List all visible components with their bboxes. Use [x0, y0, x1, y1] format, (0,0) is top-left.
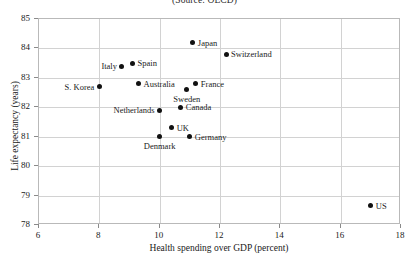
data-point-label: Netherlands [114, 106, 155, 115]
data-point[interactable] [130, 61, 135, 66]
data-point[interactable] [368, 203, 373, 208]
data-point-label: UK [177, 124, 189, 133]
x-axis-tick-label: 18 [396, 230, 405, 240]
data-point-label: Germany [195, 132, 227, 141]
y-axis-tick [34, 224, 38, 225]
y-axis-title: Life expectancy (years) [10, 56, 20, 196]
y-axis-tick-label: 78 [21, 219, 30, 229]
y-axis-tick-label: 83 [21, 72, 30, 82]
y-axis-tick [34, 106, 38, 107]
data-point[interactable] [136, 81, 141, 86]
data-point[interactable] [187, 134, 192, 139]
data-point-label: S. Korea [65, 82, 95, 91]
y-axis-tick-label: 79 [21, 190, 30, 200]
data-point-label: Australia [144, 79, 175, 88]
y-axis-tick-label: 85 [21, 13, 30, 23]
data-point-label: US [376, 202, 387, 211]
gridline-horizontal [39, 107, 399, 108]
gridline-horizontal [39, 48, 399, 49]
data-point-label: France [201, 79, 224, 88]
x-axis-tick [340, 224, 341, 228]
x-axis-tick [159, 224, 160, 228]
y-axis-tick-label: 84 [21, 42, 30, 52]
data-point[interactable] [157, 108, 162, 113]
data-point[interactable] [119, 64, 124, 69]
x-axis-tick-label: 12 [215, 230, 224, 240]
y-axis-tick [34, 165, 38, 166]
data-point[interactable] [184, 87, 189, 92]
data-point-label: Spain [138, 59, 157, 68]
gridline-vertical [280, 19, 281, 223]
y-axis-tick [34, 136, 38, 137]
source-caption: (Source: OECD) [0, 0, 409, 5]
gridline-vertical [341, 19, 342, 223]
data-point[interactable] [224, 52, 229, 57]
data-point-label: Italy [101, 62, 117, 71]
y-axis-tick-label: 80 [21, 160, 30, 170]
gridline-horizontal [39, 196, 399, 197]
x-axis-tick-label: 8 [96, 230, 101, 240]
y-axis-tick-label: 81 [21, 131, 30, 141]
x-axis-tick-label: 14 [275, 230, 284, 240]
data-point-label: Switzerland [231, 50, 272, 59]
x-axis-tick-label: 10 [154, 230, 163, 240]
gridline-horizontal [39, 166, 399, 167]
gridline-vertical [99, 19, 100, 223]
x-axis-tick [219, 224, 220, 228]
data-point[interactable] [169, 125, 174, 130]
y-axis-tick-label: 82 [21, 101, 30, 111]
gridline-vertical [220, 19, 221, 223]
data-point[interactable] [157, 134, 162, 139]
data-point-label: Denmark [144, 142, 176, 151]
data-point[interactable] [190, 40, 195, 45]
y-axis-tick [34, 77, 38, 78]
x-axis-title: Health spending over GDP (percent) [38, 243, 400, 253]
data-point-label: Canada [186, 103, 212, 112]
y-axis-tick [34, 18, 38, 19]
x-axis-tick [279, 224, 280, 228]
y-axis-tick [34, 47, 38, 48]
data-point[interactable] [97, 84, 102, 89]
x-axis-tick [400, 224, 401, 228]
x-axis-tick [38, 224, 39, 228]
x-axis-tick-label: 16 [335, 230, 344, 240]
data-point-label: Japan [198, 38, 217, 47]
data-point[interactable] [193, 81, 198, 86]
x-axis-tick-label: 6 [36, 230, 41, 240]
x-axis-tick [98, 224, 99, 228]
plot-area: JapanSwitzerlandItalySpainS. KoreaAustra… [38, 18, 400, 224]
data-point[interactable] [178, 105, 183, 110]
gridline-vertical [160, 19, 161, 223]
scatter-chart-figure: (Source: OECD) JapanSwitzerlandItalySpai… [0, 0, 409, 259]
y-axis-tick [34, 195, 38, 196]
